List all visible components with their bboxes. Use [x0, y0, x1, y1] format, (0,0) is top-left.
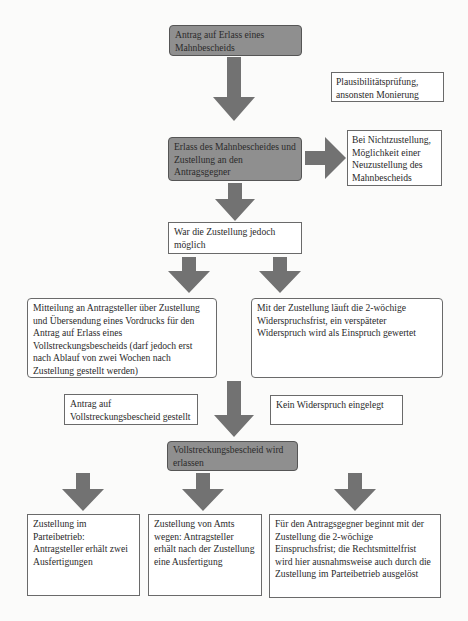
- arrow-down-icon: [215, 183, 255, 221]
- arrow-down-icon: [213, 57, 255, 121]
- node-label: Antrag auf Erlass eines Mahnbescheids: [175, 29, 264, 53]
- node-label: Vollstreckungsbescheid wird erlassen: [173, 444, 283, 468]
- arrow-down-icon: [259, 257, 301, 293]
- node-label: Mitteilung an Antragsteller über Zustell…: [33, 302, 200, 376]
- node-antrag-mahnbescheid: Antrag auf Erlass eines Mahnbescheids: [169, 25, 302, 56]
- node-amts-wegen: Zustellung von Amts wegen: Antragsteller…: [148, 514, 262, 596]
- node-label: Plausibilitätsprüfung, ansonsten Monieru…: [336, 76, 419, 100]
- node-label: Antrag auf Vollstreckungsbescheid gestel…: [70, 398, 191, 422]
- node-label: Zustellung im Parteibetrieb: Antragstell…: [33, 518, 128, 567]
- node-parteibetrieb: Zustellung im Parteibetrieb: Antragstell…: [27, 514, 140, 596]
- node-label: Kein Widerspruch eingelegt: [276, 399, 384, 410]
- node-einspruchsfrist: Für den Antragsgegner beginnt mit der Zu…: [269, 514, 441, 598]
- node-erlass-zustellung: Erlass des Mahnbescheides und Zustellung…: [168, 137, 302, 181]
- node-vollstreckungsbescheid: Vollstreckungsbescheid wird erlassen: [167, 441, 298, 471]
- node-label: Zustellung von Amts wegen: Antragsteller…: [154, 518, 254, 567]
- arrow-down-icon: [214, 381, 254, 437]
- arrow-down-icon: [62, 473, 104, 511]
- arrow-down-icon: [182, 473, 224, 511]
- arrow-down-icon: [168, 257, 210, 293]
- node-zustellung-moeglich: War die Zustellung jedoch möglich: [168, 222, 302, 254]
- arrow-right-icon: [305, 137, 346, 179]
- node-plausibilitaet: Plausibilitätsprüfung, ansonsten Monieru…: [331, 72, 444, 102]
- node-mitteilung: Mitteilung an Antragsteller über Zustell…: [27, 298, 217, 378]
- node-label: Mit der Zustellung läuft die 2-wöchige W…: [257, 302, 416, 338]
- node-label: Für den Antragsgegner beginnt mit der Zu…: [275, 518, 431, 579]
- node-label: Erlass des Mahnbescheides und Zustellung…: [174, 141, 296, 177]
- node-antrag-vollstreckung: Antrag auf Vollstreckungsbescheid gestel…: [64, 394, 198, 425]
- arrow-down-icon: [334, 473, 376, 511]
- node-label: Bei Nichtzustellung, Möglichkeit einer N…: [352, 134, 431, 183]
- node-label: War die Zustellung jedoch möglich: [174, 226, 275, 250]
- node-kein-widerspruch: Kein Widerspruch eingelegt: [270, 395, 403, 425]
- node-widerspruchsfrist: Mit der Zustellung läuft die 2-wöchige W…: [251, 298, 443, 378]
- node-nichtzustellung: Bei Nichtzustellung, Möglichkeit einer N…: [347, 130, 442, 186]
